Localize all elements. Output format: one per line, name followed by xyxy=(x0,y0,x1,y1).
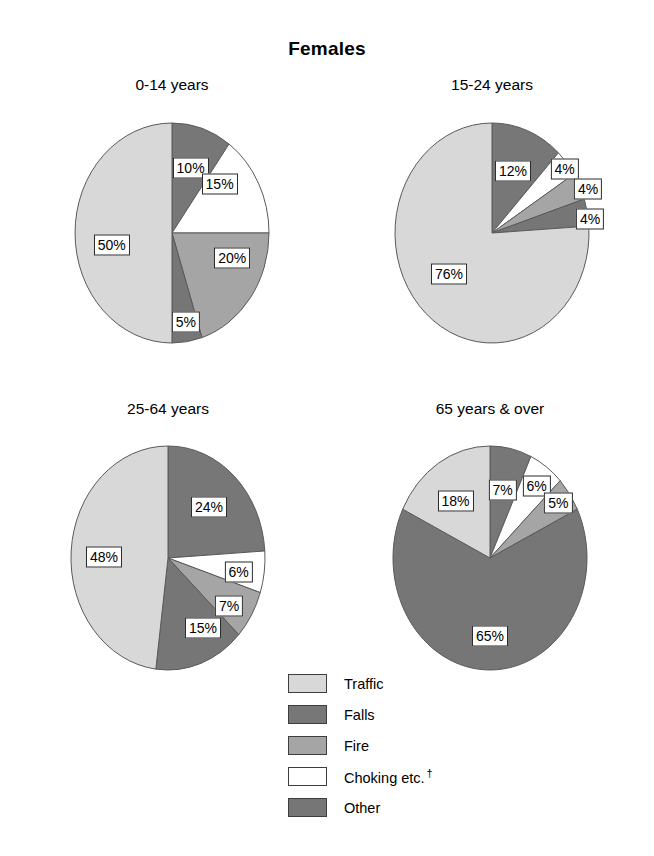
legend-label: Choking etc.† xyxy=(344,767,433,786)
legend-footnote-marker: † xyxy=(427,767,433,779)
legend-label: Traffic xyxy=(344,676,383,692)
legend-label: Other xyxy=(344,800,380,816)
pie-slice-label: 5% xyxy=(544,492,572,513)
legend: TrafficFallsFireChoking etc.†Other xyxy=(288,668,433,823)
legend-item: Choking etc.† xyxy=(288,761,433,792)
figure-root: Females 0-14 years10%15%20%5%50%15-24 ye… xyxy=(0,0,654,856)
legend-item: Falls xyxy=(288,699,433,730)
legend-item: Fire xyxy=(288,730,433,761)
legend-swatch xyxy=(288,798,327,817)
legend-swatch xyxy=(288,767,327,786)
legend-label: Falls xyxy=(344,707,375,723)
legend-item: Other xyxy=(288,792,433,823)
pie-slice-label: 7% xyxy=(488,480,516,501)
legend-swatch xyxy=(288,705,327,724)
legend-item: Traffic xyxy=(288,668,433,699)
legend-swatch xyxy=(288,674,327,693)
pie-slice-label: 65% xyxy=(472,626,508,647)
legend-swatch xyxy=(288,736,327,755)
pie-slice-label: 18% xyxy=(437,491,473,512)
legend-label: Fire xyxy=(344,738,369,754)
